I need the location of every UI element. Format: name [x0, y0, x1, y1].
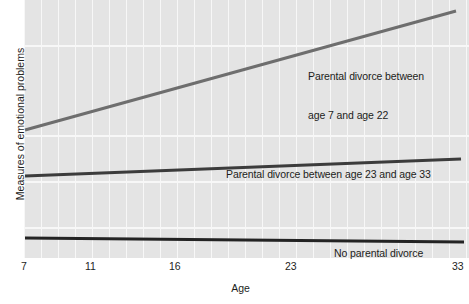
series-label-parental-divorce-23-33: Parental divorce between age 23 and age … [226, 142, 431, 207]
series-label-line: Parental divorce between age 23 and age … [226, 168, 431, 181]
x-axis-tick-labels: 7 11 16 23 33 [0, 260, 469, 276]
x-tick-label: 11 [85, 260, 96, 272]
chart-figure: Parental divorce between age 7 and age 2… [0, 0, 469, 304]
series-label-no-parental-divorce: No parental divorce [334, 221, 423, 286]
series-label-line: age 7 and age 22 [308, 109, 424, 122]
series-label-line: Parental divorce between [308, 70, 424, 83]
x-axis-title: Age [0, 282, 469, 294]
series-label-parental-divorce-7-22: Parental divorce between age 7 and age 2… [308, 44, 424, 148]
series-label-line: No parental divorce [334, 247, 423, 260]
y-axis-title: Measures of emotional problems [14, 0, 26, 249]
x-tick-label: 33 [452, 260, 464, 272]
x-tick-label: 7 [21, 260, 27, 272]
x-tick-label: 16 [169, 260, 181, 272]
x-tick-label: 23 [285, 260, 297, 272]
x-axis-title-text: Age [231, 282, 250, 294]
